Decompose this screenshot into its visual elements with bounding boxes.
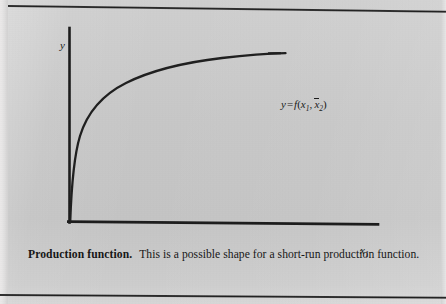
curve-label-equals: = xyxy=(286,98,294,110)
production-function-chart: y x1 y=f(x1, x2) xyxy=(0,14,446,242)
y-axis-label: y xyxy=(60,40,65,51)
caption-lead: Production function. xyxy=(28,248,132,261)
production-function-curve xyxy=(70,53,285,222)
curve-label-x2-bar: x xyxy=(314,99,319,111)
curve-equation-label: y=f(x1, x2) xyxy=(281,99,327,113)
caption-body: This is a possible shape for a short-run… xyxy=(139,248,419,261)
chart-svg xyxy=(0,14,446,242)
curve-label-close-paren: ) xyxy=(323,98,327,110)
figure-caption: Production function.This is a possible s… xyxy=(28,248,426,262)
figure-page: y x1 y=f(x1, x2) Production function.Thi… xyxy=(0,0,446,304)
curve-label-comma: , xyxy=(309,98,312,110)
x-axis-line xyxy=(68,222,378,225)
